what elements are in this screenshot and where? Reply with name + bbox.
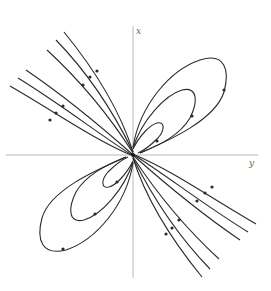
trajectories-quadrant-2 (10, 32, 133, 155)
horizontal-axis-label: y (248, 158, 255, 168)
vertical-axis-label: x (136, 26, 141, 36)
loops-quadrant-1 (133, 58, 226, 153)
critical-point (131, 153, 135, 157)
trajectories-quadrant-4 (133, 155, 256, 277)
phase-portrait: x y (0, 0, 271, 291)
loops-quadrant-3 (40, 157, 133, 251)
